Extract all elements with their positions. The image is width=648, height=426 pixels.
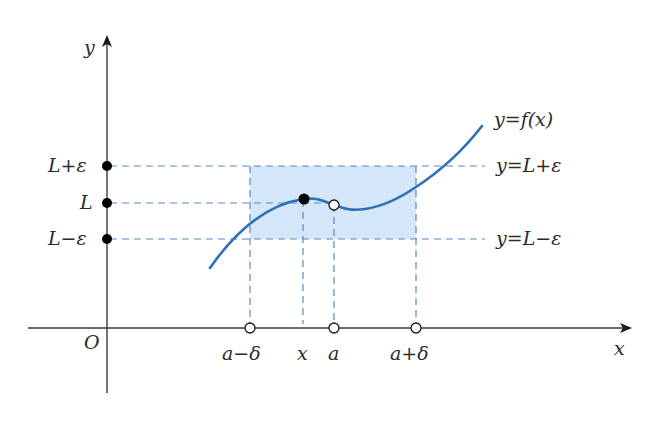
label-L-minus-epsilon: L−ε [47, 227, 87, 249]
open-point-limit [329, 200, 339, 210]
curve-label: y=f(x) [493, 108, 553, 130]
label-L: L [79, 191, 93, 213]
upper-line-label: y=L+ε [495, 154, 561, 176]
point-L-minus-epsilon [102, 234, 112, 244]
epsilon-delta-diagram: y x O L+ε L L−ε a−δ x a a+δ y=f(x) y=L+ε… [0, 0, 648, 426]
label-a-plus-delta: a+δ [390, 342, 429, 364]
label-L-plus-epsilon: L+ε [47, 154, 87, 176]
label-a-minus-delta: a−δ [222, 342, 261, 364]
label-a: a [328, 342, 339, 364]
open-point-a [329, 323, 339, 333]
x-axis-label: x [614, 337, 625, 359]
label-x: x [297, 342, 308, 364]
open-point-a-plus-delta [411, 323, 421, 333]
y-axis-label: y [83, 36, 95, 58]
origin-label: O [84, 331, 100, 353]
point-L-plus-epsilon [102, 161, 112, 171]
open-point-a-minus-delta [245, 323, 255, 333]
point-fx [299, 194, 310, 205]
lower-line-label: y=L−ε [495, 227, 561, 249]
point-L [102, 198, 112, 208]
